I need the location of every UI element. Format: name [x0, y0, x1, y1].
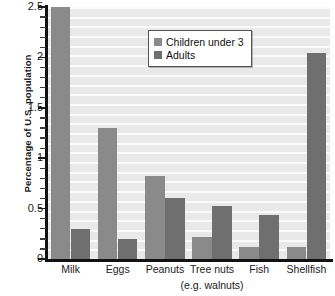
bar-children [287, 247, 307, 259]
y-axis-tick-minor [40, 87, 46, 88]
bar-group [94, 7, 141, 259]
y-axis-tick-label: 2 [3, 50, 43, 62]
x-axis-line [45, 259, 333, 262]
y-axis-tick-minor [40, 117, 46, 118]
bar-adults [259, 215, 279, 259]
y-axis-tick-minor [40, 67, 46, 68]
y-axis-tick-label: 2.5 [3, 0, 43, 12]
bar-chart-figure: Percentage of U.S. population 00.511.522… [0, 0, 335, 296]
bar-adults [212, 206, 232, 259]
y-axis-tick-minor [40, 16, 46, 17]
bar-children [192, 237, 212, 259]
legend-swatch-icon-adults [154, 51, 162, 59]
y-axis-tick-minor [40, 168, 46, 169]
bar-adults [307, 53, 327, 259]
legend-label-adults: Adults [166, 49, 195, 61]
bar-children [145, 176, 165, 259]
y-axis-line [45, 5, 48, 261]
y-axis-tick-label: 0 [3, 252, 43, 264]
y-axis-tick-minor [40, 37, 46, 38]
bar-adults [118, 239, 138, 259]
y-axis-tick-label: 1.5 [3, 101, 43, 113]
y-axis-tick-minor [40, 248, 46, 249]
x-axis-tick-label: Shellfish [283, 263, 330, 275]
y-axis-tick-label: 0.5 [3, 202, 43, 214]
x-axis-tick-label: Peanuts [141, 263, 188, 275]
x-axis-tick-label: Eggs [94, 263, 141, 275]
bar-group [283, 7, 330, 259]
y-axis-tick-minor [40, 148, 46, 149]
bar-adults [71, 229, 91, 259]
x-axis-tick-sublabel: (e.g. walnuts) [175, 279, 250, 291]
y-axis-tick-minor [40, 238, 46, 239]
y-axis-tick-minor [40, 188, 46, 189]
legend-item-adults: Adults [154, 49, 244, 61]
y-axis-tick-minor [40, 218, 46, 219]
bar-children [51, 7, 71, 259]
y-axis-tick-minor [40, 137, 46, 138]
bar-children [239, 247, 259, 259]
legend-swatch-icon-children [154, 38, 162, 46]
legend-label-children: Children under 3 [166, 36, 244, 48]
y-axis-tick-label: 1 [3, 151, 43, 163]
y-axis-tick-minor [40, 198, 46, 199]
x-axis-tick-label: Milk [47, 263, 94, 275]
x-axis-tick-label: Tree nuts [189, 263, 236, 275]
y-axis-tick-minor [40, 127, 46, 128]
bar-adults [165, 198, 185, 259]
chart-legend: Children under 3 Adults [148, 30, 252, 67]
bar-group [47, 7, 94, 259]
y-axis-tick-minor [40, 178, 46, 179]
y-axis-tick-minor [40, 47, 46, 48]
legend-item-children: Children under 3 [154, 36, 244, 48]
y-axis-tick-minor [40, 228, 46, 229]
y-axis-tick-minor [40, 97, 46, 98]
bar-children [98, 128, 118, 259]
y-axis-tick-minor [40, 27, 46, 28]
y-axis-tick-minor [40, 77, 46, 78]
x-axis-tick-label: Fish [236, 263, 283, 275]
